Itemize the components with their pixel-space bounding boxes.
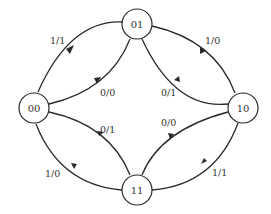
edge-11-to-10	[142, 112, 228, 175]
state-diagram: 1/1 0/0 1/0 0/1 0/1 1/0 0/0 1/1 00 0	[0, 0, 271, 214]
edge-label-10-11: 1/1	[212, 167, 227, 178]
edge-label-11-10: 0/0	[161, 117, 176, 128]
edge-00-to-01	[38, 22, 122, 92]
edge-01-to-10	[152, 26, 235, 93]
state-node-11: 11	[122, 175, 152, 205]
edge-00-to-11	[49, 112, 130, 175]
edge-10-to-01	[142, 39, 228, 104]
svg-text:10: 10	[237, 103, 250, 114]
state-node-10: 10	[228, 93, 258, 123]
edge-label-10-01: 0/1	[161, 87, 176, 98]
edge-01-to-00	[49, 39, 130, 104]
svg-text:11: 11	[131, 185, 144, 196]
svg-text:01: 01	[131, 19, 144, 30]
edge-label-11-00: 1/0	[45, 168, 60, 179]
edge-10-to-11	[152, 123, 238, 190]
edge-label-00-11: 0/1	[100, 124, 115, 135]
edge-label-00-01: 1/1	[50, 35, 65, 46]
state-node-01: 01	[122, 9, 152, 39]
svg-text:00: 00	[28, 103, 41, 114]
state-node-00: 00	[19, 93, 49, 123]
edge-label-01-10: 1/0	[205, 35, 220, 46]
edge-label-01-00: 0/0	[100, 87, 115, 98]
